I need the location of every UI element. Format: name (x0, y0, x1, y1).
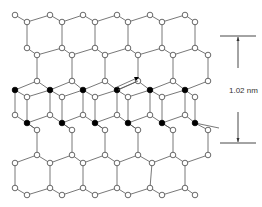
open-atom-icon (102, 52, 108, 58)
atoms-group (12, 12, 211, 198)
open-atom-icon (47, 112, 53, 118)
open-atom-icon (12, 160, 18, 166)
open-atom-icon (159, 192, 165, 198)
bond (128, 90, 150, 97)
open-atom-icon (125, 192, 131, 198)
open-atom-icon (192, 94, 198, 100)
bond (128, 188, 150, 195)
open-atom-icon (170, 52, 176, 58)
bond (15, 81, 37, 90)
open-atom-icon (59, 19, 65, 25)
open-atom-icon (125, 94, 131, 100)
open-atom-icon (102, 127, 108, 133)
open-atom-icon (159, 45, 165, 51)
bond (152, 155, 173, 163)
open-atom-icon (114, 112, 120, 118)
bond (185, 81, 208, 90)
open-atom-icon (182, 185, 188, 191)
filled-atom-icon (24, 120, 30, 126)
bond (185, 155, 208, 163)
bond (95, 188, 117, 195)
open-atom-icon (135, 127, 141, 133)
open-atom-icon (80, 112, 86, 118)
open-atom-icon (192, 45, 198, 51)
bond (50, 155, 72, 163)
open-atom-icon (92, 192, 98, 198)
open-atom-icon (69, 127, 75, 133)
open-atom-icon (47, 185, 53, 191)
open-atom-icon (192, 19, 198, 25)
open-atom-icon (47, 12, 53, 18)
bond (162, 15, 185, 22)
bond (50, 81, 72, 90)
open-atom-icon (205, 127, 211, 133)
open-atom-icon (170, 78, 176, 84)
open-atom-icon (24, 45, 30, 51)
bond (105, 48, 128, 55)
bond (27, 115, 50, 123)
filled-atom-icon (159, 120, 165, 126)
bond (95, 115, 117, 123)
open-atom-icon (59, 192, 65, 198)
open-atom-icon (170, 127, 176, 133)
filled-atom-icon (147, 87, 153, 93)
open-atom-icon (147, 12, 153, 18)
bond (117, 155, 138, 163)
bond (37, 48, 62, 55)
open-atom-icon (12, 112, 18, 118)
filled-atom-icon (125, 120, 131, 126)
open-atom-icon (69, 78, 75, 84)
open-atom-icon (114, 12, 120, 18)
open-atom-icon (24, 94, 30, 100)
filled-atom-icon (192, 120, 198, 126)
open-atom-icon (47, 160, 53, 166)
open-atom-icon (69, 52, 75, 58)
filled-atom-icon (47, 87, 53, 93)
scale-bar: 1.02 nm (220, 36, 258, 143)
open-atom-icon (80, 12, 86, 18)
open-atom-icon (205, 152, 211, 158)
open-atom-icon (170, 152, 176, 158)
scale-label: 1.02 nm (229, 86, 258, 95)
open-atom-icon (34, 78, 40, 84)
bond (150, 81, 173, 90)
bonds-group (15, 15, 219, 195)
crystal-structure-diagram: 1.02 nm (0, 0, 262, 207)
open-atom-icon (205, 78, 211, 84)
open-atom-icon (114, 160, 120, 166)
direction-arrow (117, 77, 139, 90)
open-atom-icon (182, 160, 188, 166)
open-atom-icon (182, 12, 188, 18)
open-atom-icon (69, 152, 75, 158)
bond (95, 90, 117, 97)
open-atom-icon (159, 19, 165, 25)
open-atom-icon (24, 192, 30, 198)
bond (62, 15, 83, 22)
open-atom-icon (192, 192, 198, 198)
bond (83, 155, 105, 163)
bond (27, 188, 50, 195)
scale-top-arrowhead-icon (237, 37, 240, 41)
open-atom-icon (125, 45, 131, 51)
open-atom-icon (80, 185, 86, 191)
open-atom-icon (147, 185, 153, 191)
open-atom-icon (149, 160, 155, 166)
bond (138, 48, 162, 55)
bond (128, 15, 150, 22)
open-atom-icon (34, 152, 40, 158)
bond (15, 155, 37, 163)
filled-atom-icon (59, 120, 65, 126)
bond (72, 48, 95, 55)
bond (95, 15, 117, 22)
open-atom-icon (80, 160, 86, 166)
bond (162, 188, 185, 195)
open-atom-icon (34, 52, 40, 58)
filled-atom-icon (12, 87, 18, 93)
bond (62, 90, 83, 97)
open-atom-icon (135, 152, 141, 158)
open-atom-icon (102, 78, 108, 84)
open-atom-icon (59, 94, 65, 100)
bond (62, 188, 83, 195)
bond (27, 15, 50, 22)
open-atom-icon (135, 52, 141, 58)
